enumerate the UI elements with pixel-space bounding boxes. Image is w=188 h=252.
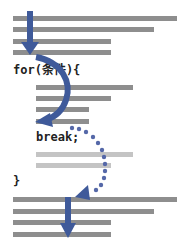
flow-overlay bbox=[0, 0, 188, 252]
arrow-down-icon bbox=[60, 197, 76, 238]
arrow-down-icon bbox=[21, 11, 39, 55]
curved-arrow-icon bbox=[35, 57, 68, 127]
dotted-curved-arrow-icon bbox=[70, 126, 107, 200]
